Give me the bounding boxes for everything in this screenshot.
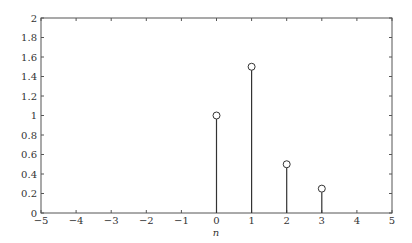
y-tick-label: 0.6 bbox=[21, 149, 37, 160]
x-tick-label: −3 bbox=[104, 215, 119, 226]
y-tick-label: 0.8 bbox=[21, 130, 37, 141]
stem-marker bbox=[213, 112, 220, 119]
stem-marker bbox=[318, 185, 325, 192]
x-tick-label: −2 bbox=[139, 215, 154, 226]
stem-marker bbox=[283, 161, 290, 168]
x-axis-label: n bbox=[213, 227, 219, 238]
y-tick-label: 1.4 bbox=[21, 71, 37, 82]
y-tick-label: 1 bbox=[31, 110, 37, 121]
y-axis-ticks: 00.20.40.60.811.21.41.61.82 bbox=[21, 13, 392, 219]
y-tick-label: 1.6 bbox=[21, 52, 37, 63]
stem-chart: −5−4−3−2−1012345 00.20.40.60.811.21.41.6… bbox=[0, 0, 412, 243]
x-tick-label: 3 bbox=[319, 215, 325, 226]
y-tick-label: 0.2 bbox=[21, 188, 37, 199]
y-tick-label: 0 bbox=[31, 208, 37, 219]
x-tick-label: 2 bbox=[284, 215, 290, 226]
x-tick-label: 0 bbox=[213, 215, 219, 226]
stem-marker bbox=[248, 63, 255, 70]
x-tick-label: 5 bbox=[389, 215, 395, 226]
x-tick-label: 4 bbox=[354, 215, 360, 226]
y-tick-label: 1.2 bbox=[21, 91, 37, 102]
y-tick-label: 2 bbox=[31, 13, 37, 24]
y-tick-label: 0.4 bbox=[21, 169, 37, 180]
x-tick-label: 1 bbox=[248, 215, 254, 226]
stem-series bbox=[213, 63, 325, 213]
x-axis-ticks: −5−4−3−2−1012345 bbox=[34, 18, 396, 226]
x-tick-label: −1 bbox=[174, 215, 189, 226]
x-tick-label: −4 bbox=[69, 215, 84, 226]
y-tick-label: 1.8 bbox=[21, 32, 37, 43]
